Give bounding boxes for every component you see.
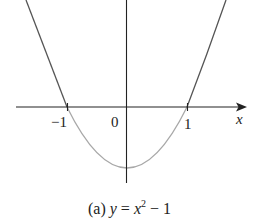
caption-x: x — [134, 200, 141, 217]
tick-label-0: 0 — [111, 115, 119, 130]
caption-eq: = — [117, 200, 134, 217]
curve-upper-right — [187, 0, 226, 107]
chart-caption: (a) y = x2 − 1 — [0, 198, 259, 218]
caption-y: y — [110, 200, 117, 217]
tick-label-1: 1 — [184, 117, 192, 132]
caption-prefix: (a) — [88, 200, 110, 217]
curve-upper-left — [26, 0, 67, 107]
parabola-plot — [0, 0, 259, 224]
tick-label-neg1: −1 — [51, 115, 67, 130]
x-axis-label: x — [236, 112, 243, 127]
caption-rest: − 1 — [146, 200, 171, 217]
